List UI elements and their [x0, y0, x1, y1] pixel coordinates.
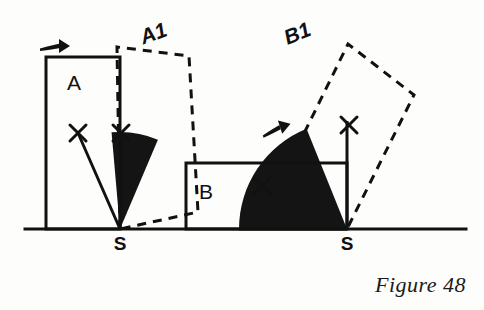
figure-48-drawing: A A1 B B1 S S	[0, 0, 484, 310]
label-B: B	[199, 180, 213, 203]
label-S-right: S	[341, 233, 354, 254]
motion-arrow-left	[40, 39, 70, 53]
label-S-left: S	[114, 233, 127, 254]
figure-page: A A1 B B1 S S Figure 48	[0, 0, 484, 310]
figure-caption: Figure 48	[375, 272, 466, 298]
label-A1: A1	[136, 18, 170, 49]
motion-arrow-right	[260, 117, 293, 140]
label-A: A	[67, 71, 81, 94]
label-B1: B1	[280, 17, 314, 48]
